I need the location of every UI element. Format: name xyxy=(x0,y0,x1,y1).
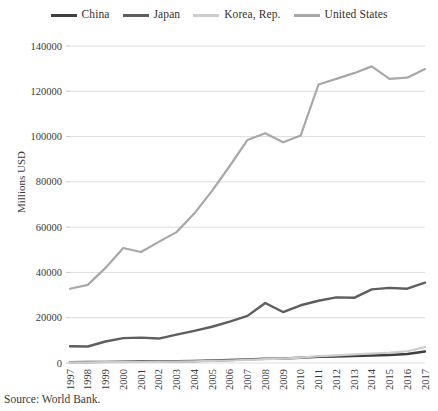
x-tick-label: 2015 xyxy=(384,369,395,390)
y-tick-label: 0 xyxy=(57,358,62,369)
x-axis-tick-labels: 1997199819992000200120022003200420052006… xyxy=(65,368,431,390)
x-tick-label: 1997 xyxy=(65,369,76,390)
x-tick-label: 2000 xyxy=(118,369,129,390)
x-tick-label: 2014 xyxy=(366,368,377,390)
y-tick-label: 120000 xyxy=(31,86,63,97)
y-tick-label: 20000 xyxy=(36,312,62,323)
y-axis-title: Millions USD xyxy=(15,137,27,227)
x-tick-label: 2017 xyxy=(420,369,431,390)
x-tick-label: 2012 xyxy=(331,369,342,390)
x-tick-label: 2013 xyxy=(349,369,360,390)
series-line xyxy=(70,66,425,288)
x-tick-label: 2009 xyxy=(278,369,289,390)
plot-area: 020000400006000080000100000120000140000 … xyxy=(0,0,438,411)
x-tick-label: 2005 xyxy=(207,369,218,390)
x-tick-label: 2008 xyxy=(260,369,271,390)
x-tick-label: 1999 xyxy=(100,369,111,390)
x-tick-label: 2003 xyxy=(171,369,182,390)
x-tick-label: 2016 xyxy=(402,369,413,390)
y-tick-label: 100000 xyxy=(31,131,63,142)
source-note: Source: World Bank. xyxy=(4,393,100,405)
y-tick-label: 140000 xyxy=(31,41,63,52)
y-axis-tick-labels: 020000400006000080000100000120000140000 xyxy=(31,41,71,369)
series-line xyxy=(70,283,425,347)
x-tick-label: 2001 xyxy=(136,369,147,390)
x-tick-label: 2011 xyxy=(313,369,324,390)
x-tick-label: 2002 xyxy=(153,369,164,390)
x-tick-label: 2006 xyxy=(224,369,235,390)
x-tick-label: 1998 xyxy=(82,369,93,390)
x-tick-label: 2004 xyxy=(189,368,200,390)
chart-figure: ChinaJapanKorea, Rep.United States 02000… xyxy=(0,0,438,411)
x-tick-label: 2010 xyxy=(295,369,306,390)
line-chart-svg: 020000400006000080000100000120000140000 … xyxy=(0,0,438,411)
y-tick-label: 60000 xyxy=(36,222,62,233)
y-tick-label: 40000 xyxy=(36,267,62,278)
x-tick-label: 2007 xyxy=(242,369,253,390)
y-tick-label: 80000 xyxy=(36,176,62,187)
